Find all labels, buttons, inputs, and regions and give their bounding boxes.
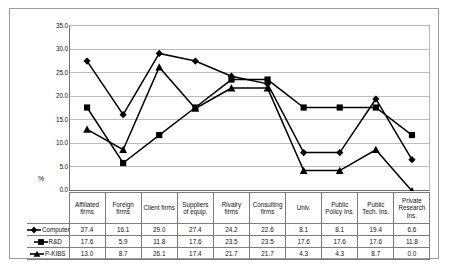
data-point-marker-square [84,104,90,110]
legend-marker-triangle-icon [30,250,44,258]
column-header: Suppliers of equip. [177,193,213,224]
table-cell: 4.3 [322,248,358,260]
table-cell: 8.7 [358,248,394,260]
table-cell: 19.4 [358,224,394,236]
data-point-marker-triangle [155,63,163,70]
table-cell: 5.9 [105,236,141,248]
table-cell: 17.6 [286,236,322,248]
table-corner-cell [27,193,69,224]
legend-marker-diamond-icon [27,226,41,234]
table-cell: 13.0 [69,248,105,260]
data-point-marker-triangle [372,146,380,153]
series-computer [83,50,415,163]
column-header: Foreign firms [105,193,141,224]
table-cell: 11.8 [394,236,430,248]
series-p-kibs [83,63,416,191]
data-point-marker-diamond [408,156,415,163]
y-tick-label: 15.0 [32,117,68,123]
legend-label: R&D [49,238,62,245]
table-header-row: Affiliated firms Foreign firms Client fi… [27,193,430,224]
column-header: Univ. [286,193,322,224]
column-header: Public Policy Ins. [322,193,358,224]
table-cell: 8.1 [286,224,322,236]
legend-label: P-KIBS [45,250,66,257]
table-row: Computer27.416.129.027.424.222.68.18.119… [27,224,430,236]
table-cell: 23.5 [213,236,249,248]
table-cell: 0.0 [394,248,430,260]
table-cell: 17.6 [69,236,105,248]
legend-entry-p-kibs[interactable]: P-KIBS [27,248,69,260]
table-cell: 29.0 [141,224,177,236]
legend-entry-computer[interactable]: Computer [27,224,69,236]
y-tick-label: 5.0 [32,164,68,170]
data-point-marker-square [228,76,234,82]
table-cell: 6.6 [394,224,430,236]
table-cell: 11.8 [141,236,177,248]
y-tick-label: 30.0 [32,46,68,52]
table-cell: 17.6 [322,236,358,248]
series-r-d [84,76,415,166]
series-line [87,53,412,159]
series-plot [69,25,430,191]
table-cell: 21.7 [213,248,249,260]
y-tick-label: 35.0 [32,23,68,29]
y-tick-label: 20.0 [32,93,68,99]
table-cell: 8.7 [105,248,141,260]
table-cell: 27.4 [69,224,105,236]
data-point-marker-diamond [192,57,199,64]
y-tick-label: 25.0 [32,70,68,76]
y-axis-tick-labels: 35.0 30.0 25.0 20.0 15.0 10.0 5.0 0.0 [32,23,68,191]
data-point-marker-square [373,104,379,110]
table-cell: 4.3 [286,248,322,260]
table-cell: 23.5 [249,236,285,248]
table-cell: 24.2 [213,224,249,236]
table-cell: 17.4 [177,248,213,260]
y-axis-title: % [38,175,44,182]
table-cell: 16.1 [105,224,141,236]
data-point-marker-square [264,76,270,82]
data-point-marker-square [156,132,162,138]
column-header: Public Tech. Ins. [358,193,394,224]
data-point-marker-square [301,104,307,110]
legend-label: Computer [42,226,70,233]
legend-marker-square-icon [34,238,48,246]
data-point-marker-diamond [156,50,163,57]
data-point-marker-diamond [300,149,307,156]
column-header: Affiliated firms [69,193,105,224]
table-cell: 21.7 [249,248,285,260]
data-point-marker-square [409,132,415,138]
series-line [87,67,412,191]
table-cell: 26.1 [141,248,177,260]
column-header: Consulting firms [249,193,285,224]
table-cell: 27.4 [177,224,213,236]
table-cell: 8.1 [322,224,358,236]
table-row: R&D17.65.911.817.623.523.517.617.617.611… [27,236,430,248]
chart-screenshot: 35.0 30.0 25.0 20.0 15.0 10.0 5.0 0.0 % [0,0,449,267]
data-table: Affiliated firms Foreign firms Client fi… [27,192,430,260]
data-point-marker-square [120,160,126,166]
column-header: Private Research Ins. [394,193,430,224]
table-row: P-KIBS13.08.726.117.421.721.74.34.38.70.… [27,248,430,260]
column-header: Rivalry firms [213,193,249,224]
figure-frame: 35.0 30.0 25.0 20.0 15.0 10.0 5.0 0.0 % [9,8,439,259]
table-cell: 17.6 [177,236,213,248]
y-tick-label: 10.0 [32,140,68,146]
column-header: Client firms [141,193,177,224]
table-cell: 17.6 [358,236,394,248]
data-point-marker-triangle [83,125,91,132]
table-cell: 22.6 [249,224,285,236]
data-point-marker-square [337,104,343,110]
data-point-marker-triangle [119,146,127,153]
legend-entry-r-d[interactable]: R&D [27,236,69,248]
